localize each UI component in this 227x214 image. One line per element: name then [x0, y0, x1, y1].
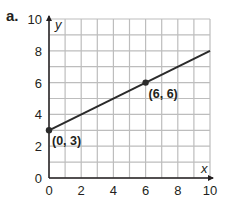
x-tick-label: 0 [45, 183, 52, 198]
x-tick-label: 4 [110, 183, 117, 198]
x-tick-label: 8 [174, 183, 181, 198]
data-point-marker [46, 127, 52, 133]
data-point-label: (0, 3) [52, 134, 81, 148]
line-chart: yx02468100246810(0, 3)(6, 6) [0, 0, 227, 214]
x-axis-label: x [200, 161, 208, 176]
x-axis-arrow-icon [208, 175, 214, 181]
y-tick-label: 4 [35, 107, 42, 122]
x-tick-label: 10 [203, 183, 217, 198]
data-point-marker [142, 79, 148, 85]
y-tick-label: 10 [28, 12, 42, 27]
y-tick-label: 6 [35, 76, 42, 91]
y-axis-arrow-icon [46, 15, 52, 21]
y-tick-label: 8 [35, 44, 42, 59]
y-tick-label: 0 [35, 171, 42, 186]
data-point-label: (6, 6) [149, 87, 178, 101]
x-tick-label: 2 [78, 183, 85, 198]
x-tick-label: 6 [142, 183, 149, 198]
y-tick-label: 2 [35, 139, 42, 154]
